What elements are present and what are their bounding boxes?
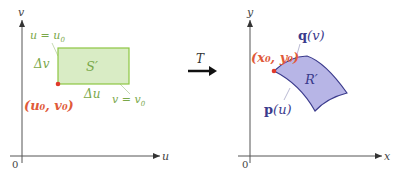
corner-point-uv-label: (u₀, v₀): [24, 98, 74, 113]
origin-label-right: 0: [242, 159, 248, 170]
p-of-u-label: p(u): [264, 102, 292, 117]
delta-u-label: Δu: [83, 87, 100, 101]
v-axis-label: v: [18, 6, 25, 19]
corner-point-xy: [272, 69, 277, 74]
x-axis-label: x: [384, 150, 391, 163]
u-line-leader: [52, 43, 58, 56]
y-axis-label: y: [246, 6, 254, 19]
v-equals-v0-label: v = v0: [112, 93, 146, 108]
transform-arrow: T: [188, 52, 217, 76]
p-curve-leader: [284, 88, 290, 100]
q-of-v-label: q(v): [298, 28, 325, 43]
delta-v-label: Δv: [33, 57, 50, 71]
left-panel: v u 0 S′ u = u0 v = v0 Δv Δu (u₀, v₀): [10, 6, 169, 170]
region-r-prime-label: R′: [304, 72, 318, 87]
corner-point-uv: [56, 82, 61, 87]
origin-label-left: 0: [12, 159, 18, 170]
arrow-head-icon: [209, 66, 217, 76]
change-of-variables-diagram: v u 0 S′ u = u0 v = v0 Δv Δu (u₀, v₀) T …: [0, 0, 397, 173]
u-axis-label: u: [162, 150, 169, 163]
region-s-prime-label: S′: [86, 59, 98, 74]
u-equals-u0-label: u = u0: [30, 29, 65, 44]
right-panel: y x 0 R′ q(v) p(u) (x₀, y₀): [238, 6, 391, 170]
transform-label: T: [196, 52, 205, 66]
corner-point-xy-label: (x₀, y₀): [251, 50, 299, 65]
